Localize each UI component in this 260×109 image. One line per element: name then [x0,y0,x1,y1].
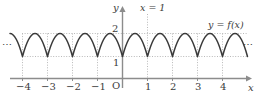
x-tick-label-1: 1 [145,82,151,92]
vertical-line-annotation: x = 1 [140,3,165,13]
x-tick-label-minus-1: −1 [91,82,106,92]
function-graph-figure: y x O 2 1 −4 −3 −2 −1 1 2 3 4 x = 1 y = … [0,0,260,109]
x-axis-arrow [246,75,252,81]
x-tick-label-2: 2 [170,82,176,92]
curve-annotation: y = f(x) [208,20,244,30]
x-tick-label-minus-3: −3 [41,82,56,92]
x-axis-label: x [248,83,254,93]
function-curve [10,34,248,57]
left-ellipsis: ⋯ [2,40,13,50]
x-tick-label-minus-2: −2 [66,82,81,92]
x-tick-label-minus-4: −4 [16,82,31,92]
right-ellipsis: ⋯ [243,40,254,50]
origin-label: O [112,81,120,91]
x-tick-label-4: 4 [220,82,226,92]
y-axis-arrow [119,6,125,12]
plot-canvas [0,0,260,109]
y-axis-label: y [113,3,119,13]
y-tick-label-1: 1 [113,58,119,68]
x-tick-label-3: 3 [195,82,201,92]
y-tick-label-2: 2 [112,24,118,34]
